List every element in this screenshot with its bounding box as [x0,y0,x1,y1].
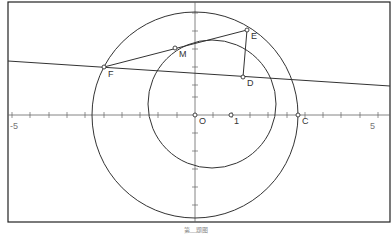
label-M: M [179,49,187,59]
point-O [193,113,197,117]
point-D [241,75,245,79]
label-E: E [251,31,257,41]
point-F [102,65,106,69]
point-M [173,46,177,50]
geometry-figure: -5 5 O 1 C D E F M [0,0,392,235]
label-C: C [302,116,309,126]
x-tick-label-5: 5 [370,121,375,131]
point-C [296,113,300,117]
plot-frame [8,2,390,222]
point-E [245,28,249,32]
figure-caption: 第__题图 [0,225,392,234]
x-tick-label-neg5: -5 [10,121,18,131]
label-O: O [199,116,206,126]
point-1 [229,113,233,117]
label-F: F [108,69,114,79]
label-1: 1 [234,116,239,126]
label-D: D [247,78,254,88]
